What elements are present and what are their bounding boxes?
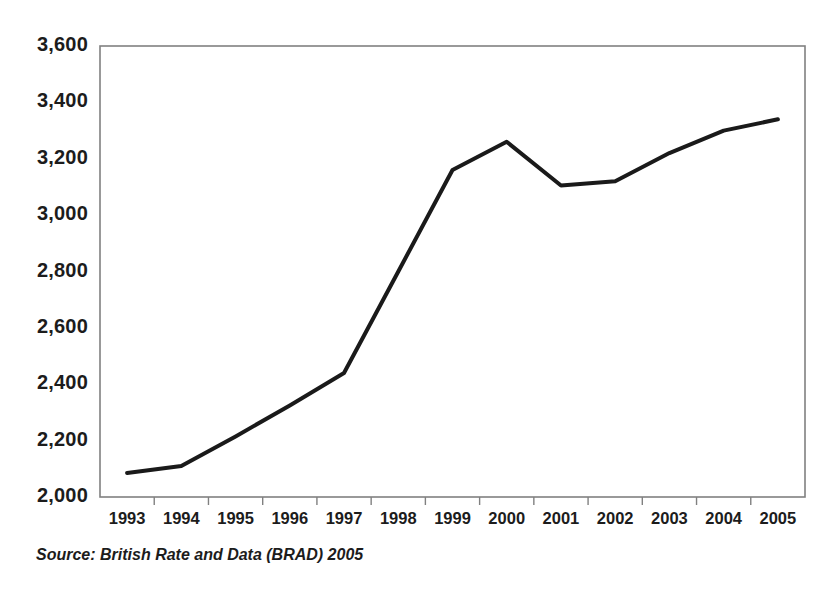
- x-axis-tick-label: 1994: [151, 509, 211, 528]
- x-axis-tick-label: 2003: [639, 509, 699, 528]
- x-axis-tick-label: 2005: [748, 509, 808, 528]
- plot-frame: [100, 46, 805, 497]
- x-axis-tick-label: 2002: [585, 509, 645, 528]
- y-axis-tick-label: 3,000: [0, 202, 88, 225]
- y-axis-tick-label: 2,400: [0, 371, 88, 394]
- y-axis-tick-label: 2,000: [0, 484, 88, 507]
- x-axis-tick-label: 1998: [368, 509, 428, 528]
- x-axis-tick-label: 1993: [97, 509, 157, 528]
- x-axis-tick-label: 1997: [314, 509, 374, 528]
- y-axis-tick-label: 3,600: [0, 33, 88, 56]
- x-axis-tick-label: 1995: [206, 509, 266, 528]
- y-axis-tick-label: 2,600: [0, 315, 88, 338]
- x-axis-tick-label: 2000: [477, 509, 537, 528]
- data-line-series: [127, 119, 778, 473]
- x-axis-tick-label: 2001: [531, 509, 591, 528]
- y-axis-tick-label: 3,200: [0, 146, 88, 169]
- line-chart-figure: 3,6003,4003,2003,0002,8002,6002,4002,200…: [0, 0, 838, 599]
- y-axis-tick-label: 2,800: [0, 259, 88, 282]
- source-note: Source: British Rate and Data (BRAD) 200…: [36, 546, 363, 564]
- x-axis-ticks: [154, 497, 751, 505]
- x-axis-tick-label: 1996: [260, 509, 320, 528]
- y-axis-tick-label: 2,200: [0, 428, 88, 451]
- x-axis-tick-label: 1999: [423, 509, 483, 528]
- y-axis-tick-label: 3,400: [0, 89, 88, 112]
- x-axis-tick-label: 2004: [694, 509, 754, 528]
